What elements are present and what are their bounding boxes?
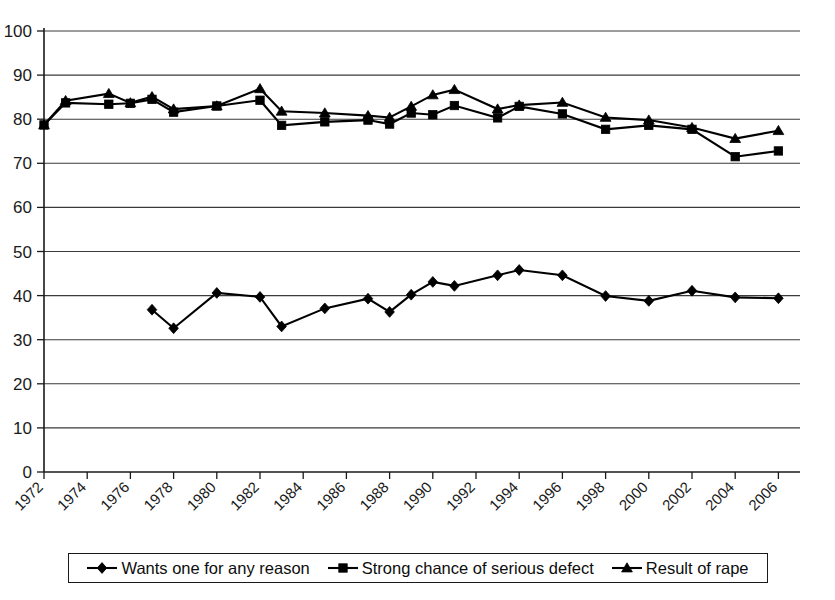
data-point bbox=[363, 293, 373, 304]
y-tick-label: 80 bbox=[13, 110, 32, 129]
x-axis-ticks bbox=[44, 472, 778, 479]
x-tick-label: 2006 bbox=[745, 478, 781, 514]
x-tick-label: 2004 bbox=[702, 478, 738, 514]
series-line bbox=[152, 270, 778, 328]
x-tick-label: 1984 bbox=[270, 478, 306, 514]
x-tick-label: 1986 bbox=[313, 478, 349, 514]
x-tick-label: 1996 bbox=[529, 478, 565, 514]
data-point bbox=[103, 88, 114, 97]
data-point bbox=[601, 125, 609, 133]
x-tick-label: 1988 bbox=[356, 478, 392, 514]
data-point bbox=[450, 280, 460, 291]
data-point bbox=[730, 292, 740, 303]
data-point bbox=[773, 125, 784, 134]
x-tick-label: 1998 bbox=[572, 478, 608, 514]
data-point bbox=[558, 110, 566, 118]
square-marker-icon bbox=[328, 561, 358, 575]
x-tick-label: 1992 bbox=[443, 478, 479, 514]
data-point bbox=[774, 293, 784, 304]
y-axis-ticks bbox=[37, 31, 44, 472]
x-tick-label: 1982 bbox=[227, 478, 263, 514]
diamond-marker-icon bbox=[87, 561, 117, 575]
x-tick-label: 1980 bbox=[183, 478, 219, 514]
series-0 bbox=[147, 265, 783, 334]
x-tick-label: 1972 bbox=[11, 478, 47, 514]
x-tick-label: 1990 bbox=[399, 478, 435, 514]
y-tick-label: 20 bbox=[13, 375, 32, 394]
data-point bbox=[105, 100, 113, 108]
x-tick-label: 2002 bbox=[659, 478, 695, 514]
y-tick-label: 90 bbox=[13, 66, 32, 85]
x-tick-label: 2000 bbox=[615, 478, 651, 514]
legend-label: Strong chance of serious defect bbox=[362, 559, 594, 578]
chart-canvas: 0102030405060708090100 19721974197619781… bbox=[0, 0, 835, 600]
data-point bbox=[493, 270, 503, 281]
y-tick-label: 100 bbox=[4, 22, 32, 41]
data-point bbox=[514, 265, 524, 276]
data-point bbox=[321, 118, 329, 126]
y-tick-label: 60 bbox=[13, 198, 32, 217]
data-point bbox=[644, 295, 654, 306]
data-point bbox=[774, 147, 782, 155]
data-point bbox=[449, 84, 460, 93]
y-tick-label: 30 bbox=[13, 331, 32, 350]
legend-item-1[interactable]: Strong chance of serious defect bbox=[328, 559, 594, 578]
y-tick-label: 40 bbox=[13, 287, 32, 306]
data-point bbox=[493, 114, 501, 122]
data-point bbox=[256, 96, 264, 104]
x-tick-label: 1976 bbox=[97, 478, 133, 514]
legend-label: Wants one for any reason bbox=[121, 559, 309, 578]
y-tick-label: 70 bbox=[13, 154, 32, 173]
legend-item-0[interactable]: Wants one for any reason bbox=[87, 559, 309, 578]
x-tick-label: 1978 bbox=[140, 478, 176, 514]
x-tick-label: 1974 bbox=[54, 478, 90, 514]
gridlines bbox=[44, 31, 800, 428]
legend-item-2[interactable]: Result of rape bbox=[612, 559, 749, 578]
data-point bbox=[601, 291, 611, 302]
y-tick-label: 50 bbox=[13, 243, 32, 262]
triangle-marker-icon bbox=[612, 561, 642, 575]
legend-label: Result of rape bbox=[646, 559, 749, 578]
y-tick-label: 0 bbox=[23, 463, 32, 482]
data-point bbox=[277, 121, 285, 129]
chart-legend: Wants one for any reasonStrong chance of… bbox=[68, 553, 768, 583]
data-point bbox=[558, 270, 568, 281]
y-axis-tick-labels: 0102030405060708090100 bbox=[4, 22, 32, 482]
data-point bbox=[320, 303, 330, 314]
y-tick-label: 10 bbox=[13, 419, 32, 438]
data-point bbox=[731, 152, 739, 160]
data-point bbox=[429, 111, 437, 119]
x-axis-tick-labels: 1972197419761978198019821984198619881990… bbox=[11, 478, 781, 514]
data-point bbox=[428, 277, 438, 288]
data-point bbox=[687, 285, 697, 296]
line-chart: 0102030405060708090100 19721974197619781… bbox=[0, 0, 835, 600]
data-point bbox=[255, 84, 266, 93]
data-point bbox=[450, 101, 458, 109]
data-point bbox=[406, 101, 417, 110]
x-tick-label: 1994 bbox=[486, 478, 522, 514]
